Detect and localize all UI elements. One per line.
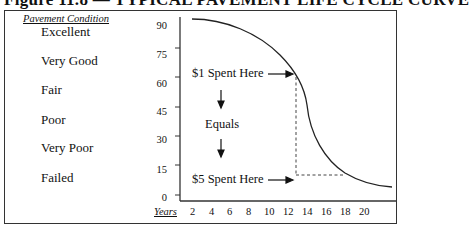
y-tick-label: 0 [151,192,167,203]
y-tick-label: 75 [151,49,167,60]
x-axis-label: Years [154,206,177,217]
x-tick-label: 12 [283,206,294,217]
condition-very-good: Very Good [41,53,98,69]
y-tick-label: 30 [151,134,167,145]
x-tick-label: 6 [227,206,232,217]
annotation-one-dollar: $1 Spent Here [192,66,264,81]
y-tick-label: 15 [151,164,167,175]
x-tick-label: 20 [359,206,370,217]
y-ticks [175,48,180,195]
condition-poor: Poor [41,112,66,128]
x-tick-label: 2 [190,206,195,217]
y-tick-label: 60 [151,78,167,89]
x-tick-label: 8 [246,206,251,217]
y-tick-label: 90 [151,20,167,31]
condition-very-poor: Very Poor [41,140,93,156]
x-tick-label: 10 [264,206,275,217]
y-tick-label: 45 [151,106,167,117]
condition-failed: Failed [41,170,74,186]
condition-excellent: Excellent [41,24,90,40]
annotation-equals: Equals [205,117,239,132]
x-tick-label: 16 [321,206,332,217]
x-tick-label: 14 [302,206,313,217]
pavement-condition-heading: Pavement Condition [23,13,109,24]
x-tick-label: 18 [340,206,351,217]
condition-fair: Fair [41,82,62,98]
annotation-five-dollars: $5 Spent Here [192,172,264,187]
x-tick-label: 4 [209,206,214,217]
